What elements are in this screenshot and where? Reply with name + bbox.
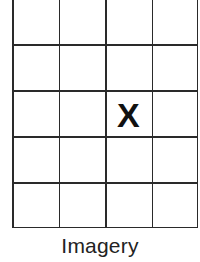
grid-horizontal-line [12,90,198,92]
diagram-caption: Imagery [0,234,200,258]
grid-horizontal-line [12,182,198,184]
grid-vertical-line [152,0,154,228]
grid-vertical-line [105,0,107,228]
grid-vertical-line [12,0,14,228]
grid-horizontal-line [12,44,198,46]
grid-cell-mark: X [117,98,140,132]
grid-diagram: X [12,0,198,228]
grid-vertical-line [197,0,199,228]
grid-vertical-line [59,0,61,228]
grid-horizontal-line [12,136,198,138]
grid-lines: X [12,0,198,228]
grid-horizontal-line [12,227,198,229]
